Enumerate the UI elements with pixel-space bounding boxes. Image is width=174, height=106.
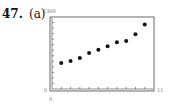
plot-frame (50, 17, 154, 91)
data-point (115, 40, 119, 44)
data-point (133, 32, 137, 36)
data-point (87, 51, 91, 55)
x-max-label: 11 (157, 87, 163, 93)
y-min-label: 0 (44, 87, 47, 93)
y-max-label: 1300 (43, 8, 56, 14)
x-min-label: 0 (49, 96, 52, 102)
data-point (59, 61, 63, 65)
data-point (96, 48, 100, 52)
data-point (124, 39, 128, 43)
data-point (106, 44, 110, 48)
data-point (78, 56, 82, 60)
scatter-chart: 1300 0 0 11 (0, 0, 174, 106)
data-point (69, 59, 73, 63)
data-point (143, 22, 147, 26)
